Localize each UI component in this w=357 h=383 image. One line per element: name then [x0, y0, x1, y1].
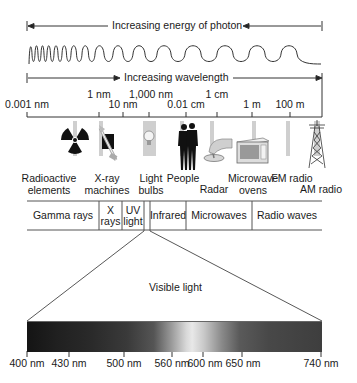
- band-label: X: [107, 205, 114, 216]
- visible-tick-430nm: 430 nm: [51, 357, 86, 369]
- band-uv-light: UV light: [122, 201, 144, 230]
- caption-line: bulbs: [138, 185, 163, 197]
- source-xray-machines: X-ray machines: [85, 173, 130, 196]
- band-label: Infrared: [150, 210, 186, 221]
- caption-line: elements: [22, 185, 77, 197]
- scale-label-0.001nm: 0.001 nm: [5, 99, 49, 110]
- source-light-bulbs: Light bulbs: [138, 173, 163, 196]
- band-infrared: Infrared: [150, 201, 186, 230]
- caption-line: ovens: [228, 185, 278, 197]
- wavelength-label: Increasing wavelength: [124, 72, 228, 83]
- band-radio-waves: Radio waves: [252, 201, 322, 230]
- visible-light-title: Visible light: [149, 282, 202, 293]
- energy-label: Increasing energy of photon: [112, 20, 242, 31]
- visible-tick-560nm: 560 nm: [154, 357, 189, 369]
- scale-label-1m: 1 m: [243, 99, 261, 110]
- band-label: light: [123, 216, 142, 227]
- scale-label-100m: 100 m: [275, 99, 304, 110]
- visible-tick-600nm: 600 nm: [187, 357, 222, 369]
- caption-line: Radioactive: [22, 173, 77, 185]
- visible-tick-650nm: 650 nm: [225, 357, 260, 369]
- visible-spectrum-bar: [27, 321, 322, 352]
- band-label: rays: [101, 216, 121, 227]
- scale-label-0.01cm: 0.01 cm: [167, 99, 204, 110]
- scale-label-1000nm: 1,000 nm: [129, 89, 173, 100]
- band-microwaves: Microwaves: [186, 201, 252, 230]
- caption-line: Light: [138, 173, 163, 185]
- band-x-rays: X rays: [99, 201, 122, 230]
- band-label: Radio waves: [257, 210, 317, 221]
- caption-line: X-ray: [85, 173, 130, 185]
- caption-line: machines: [85, 185, 130, 197]
- radar-icon: [204, 139, 232, 162]
- scale-label-10nm: 10 nm: [108, 99, 137, 110]
- band-label: UV: [126, 205, 141, 216]
- source-radar: Radar: [200, 184, 229, 196]
- wave-icon: [29, 46, 321, 64]
- caption-line: AM radio: [300, 184, 342, 196]
- visible-tick-740nm: 740 nm: [303, 357, 338, 369]
- band-gamma-rays: Gamma rays: [27, 201, 99, 230]
- source-people: People: [167, 173, 200, 185]
- visible-zoom-lines: [27, 231, 322, 321]
- band-label: Gamma rays: [33, 210, 93, 221]
- source-radioactive-elements: Radioactive elements: [22, 173, 77, 196]
- band-label: Microwaves: [191, 210, 246, 221]
- scale-label-1cm: 1 cm: [206, 89, 229, 100]
- caption-line: Radar: [200, 184, 229, 196]
- scale-label-1nm: 1 nm: [87, 89, 110, 100]
- caption-line: People: [167, 173, 200, 185]
- visible-tick-400nm: 400 nm: [9, 357, 44, 369]
- source-am-radio: AM radio: [300, 184, 342, 196]
- visible-tick-500nm: 500 nm: [106, 357, 141, 369]
- microwave-oven-icon: [237, 138, 269, 163]
